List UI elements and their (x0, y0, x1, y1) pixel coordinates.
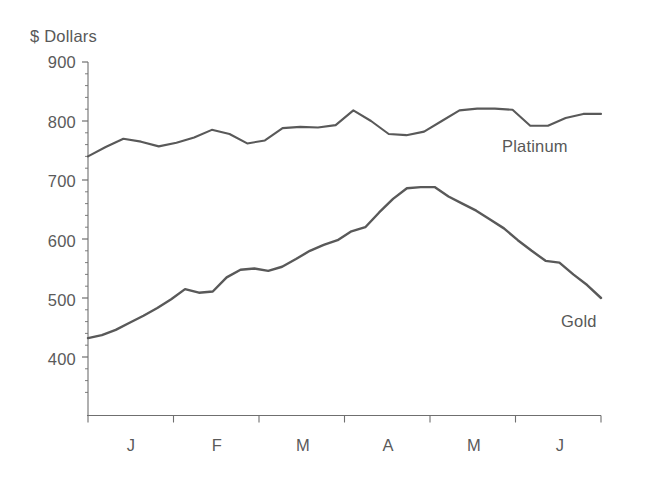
y-axis-ticks (82, 62, 88, 392)
series-line-platinum (88, 109, 601, 157)
x-axis-ticks (88, 416, 601, 423)
axis-lines (87, 62, 601, 416)
plot-area (0, 0, 660, 477)
line-chart: $ Dollars 900 800 700 600 500 400 J F M … (0, 0, 660, 477)
series-line-gold (88, 187, 601, 338)
